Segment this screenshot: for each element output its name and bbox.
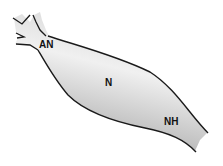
label-nh: NH (164, 116, 178, 127)
label-an: AN (39, 39, 53, 50)
label-n: N (105, 77, 112, 88)
muscle-diagram: AN N NH (0, 0, 223, 166)
